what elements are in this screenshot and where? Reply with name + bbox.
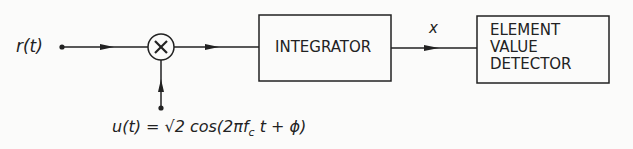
detector-line-1: ELEMENT — [490, 22, 572, 39]
arrow-up-icon — [158, 79, 164, 92]
reference-signal-label: u(t) = √2 cos(2πfc t + ϕ) — [112, 117, 306, 139]
detector-line-3: DETECTOR — [490, 56, 572, 73]
input-node-dot — [59, 44, 64, 49]
reference-node-dot — [158, 105, 163, 110]
reference-signal-tail: t + ϕ) — [255, 117, 307, 136]
arrow-right-icon — [205, 44, 219, 50]
arrow-right-icon — [100, 44, 114, 50]
reference-signal-main: u(t) = √2 cos(2πf — [112, 117, 249, 136]
input-signal-label: r(t) — [16, 36, 43, 56]
integrator-label: INTEGRATOR — [275, 39, 371, 56]
detector-line-2: VALUE — [490, 39, 572, 56]
detector-label: ELEMENT VALUE DETECTOR — [490, 22, 572, 73]
arrow-right-icon — [424, 45, 439, 51]
integrator-output-label: x — [429, 19, 438, 37]
